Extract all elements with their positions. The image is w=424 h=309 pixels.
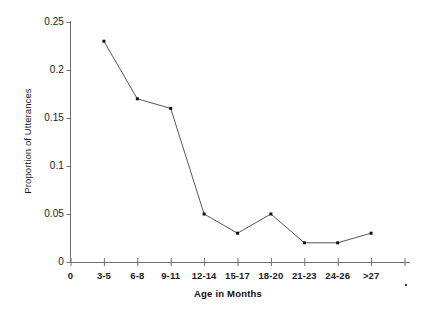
y-tick-label: 0.25 [18,16,64,27]
y-tick-label: 0 [18,256,64,267]
chart-figure: Proportion of Utterances 00.050.10.150.2… [0,0,424,309]
y-tick-label: 0.05 [18,208,64,219]
data-point-marker [370,232,373,235]
data-point-marker [303,241,306,244]
y-tick-label: 0.1 [18,160,64,171]
data-point-marker [102,40,105,43]
data-point-markers [102,40,372,245]
data-point-marker [136,97,139,100]
y-axis-ticks [67,23,71,263]
data-point-marker [269,213,272,216]
y-axis-title: Proportion of Utterances [22,88,33,194]
data-point-marker [169,107,172,110]
corner-dot-mark [405,284,407,286]
y-tick-label: 0.2 [18,64,64,75]
y-tick-label: 0.15 [18,112,64,123]
x-axis-title: Age in Months [194,288,262,299]
data-point-marker [336,241,339,244]
data-point-marker [236,232,239,235]
data-series-line [104,41,371,243]
data-point-marker [203,213,206,216]
x-tick-label: >27 [341,270,401,281]
